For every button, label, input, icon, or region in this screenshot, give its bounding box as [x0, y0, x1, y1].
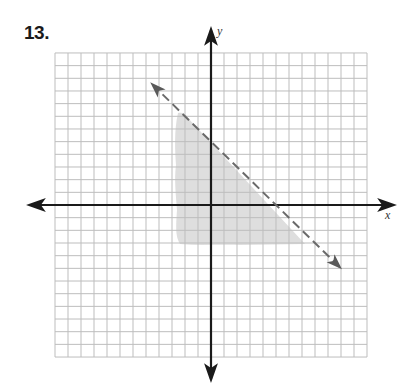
coordinate-graph: y x [0, 0, 418, 386]
x-axis-label: x [384, 208, 391, 222]
y-axis-label: y [216, 24, 223, 38]
shaded-region [175, 113, 305, 245]
